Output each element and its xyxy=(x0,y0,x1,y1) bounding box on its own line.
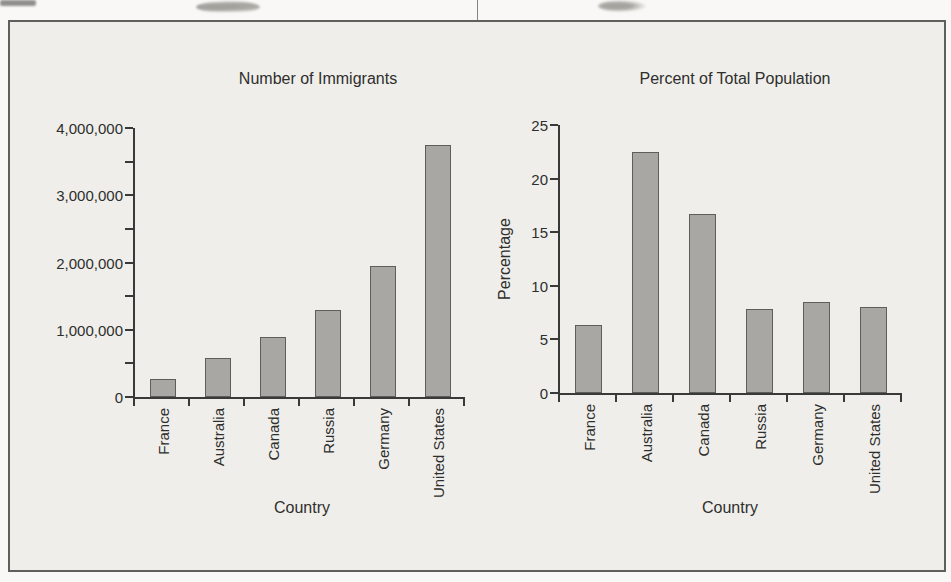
scan-artifact xyxy=(196,1,260,13)
bar-australia xyxy=(632,152,659,393)
y-axis-title: Percentage xyxy=(496,218,514,300)
y-tick-label: 5 xyxy=(540,331,548,348)
bar-germany xyxy=(803,302,830,393)
y-tick-label: 20 xyxy=(531,170,548,187)
y-tick xyxy=(550,231,558,233)
x-category-label-canada: Canada xyxy=(694,404,711,457)
x-category-label-germany: Germany xyxy=(808,404,825,466)
y-tick-label: 0 xyxy=(540,385,548,402)
y-tick-label: 15 xyxy=(531,224,548,241)
x-tick xyxy=(843,395,845,402)
x-axis-title: Country xyxy=(702,499,758,517)
y-axis-line xyxy=(558,125,560,395)
page-column-rule xyxy=(477,0,478,21)
bar-united-states xyxy=(860,307,887,393)
x-tick xyxy=(672,395,674,402)
bar-france xyxy=(575,325,602,393)
x-tick xyxy=(615,395,617,402)
x-tick xyxy=(729,395,731,402)
y-tick xyxy=(550,392,558,394)
x-tick xyxy=(558,395,560,402)
chart-title: Percent of Total Population xyxy=(640,70,831,88)
y-tick xyxy=(550,285,558,287)
scan-artifact xyxy=(0,0,36,6)
x-tick xyxy=(786,395,788,402)
figure-box: Number of Immigrants01,000,0002,000,0003… xyxy=(8,20,946,572)
x-category-label-united-states: United States xyxy=(865,404,882,494)
y-tick xyxy=(550,178,558,180)
y-tick-label: 10 xyxy=(531,277,548,294)
x-category-label-australia: Australia xyxy=(637,404,654,462)
x-category-label-france: France xyxy=(580,404,597,451)
bar-russia xyxy=(746,309,773,393)
y-tick xyxy=(550,338,558,340)
x-tick xyxy=(900,395,902,402)
x-category-label-russia: Russia xyxy=(751,404,768,450)
y-tick-label: 25 xyxy=(531,117,548,134)
bar-canada xyxy=(689,214,716,393)
scan-artifact xyxy=(598,0,646,12)
chart-percent-of-total-population: Percent of Total PopulationPercentage051… xyxy=(10,22,944,570)
y-tick xyxy=(550,124,558,126)
